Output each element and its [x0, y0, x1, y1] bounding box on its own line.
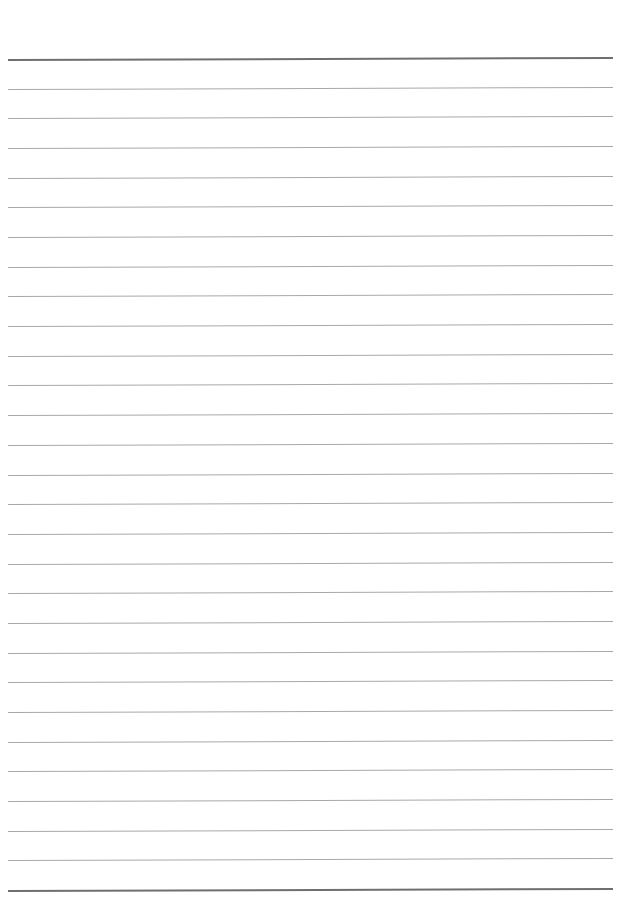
- ruled-line: [8, 205, 613, 208]
- heavy-ruled-line: [8, 888, 613, 892]
- ruled-line: [8, 769, 613, 772]
- ruled-line: [8, 324, 613, 327]
- ruled-line: [8, 383, 613, 386]
- ruled-line: [8, 176, 613, 179]
- ruled-line: [8, 710, 613, 713]
- ruled-line: [8, 621, 613, 624]
- ruled-line: [8, 799, 613, 802]
- ruled-line: [8, 265, 613, 268]
- ruled-line: [8, 294, 613, 297]
- ruled-line: [8, 502, 613, 505]
- ruled-line: [8, 532, 613, 535]
- ruled-line: [8, 829, 613, 832]
- heavy-ruled-line: [8, 57, 613, 61]
- ruled-line: [8, 651, 613, 654]
- ruled-line: [8, 740, 613, 743]
- ruled-line: [8, 858, 613, 861]
- ruled-line: [8, 562, 613, 565]
- ruled-line: [8, 591, 613, 594]
- lined-paper-page: [0, 0, 638, 911]
- ruled-line: [8, 87, 613, 90]
- ruled-line: [8, 443, 613, 446]
- ruled-line: [8, 235, 613, 238]
- ruled-line: [8, 146, 613, 149]
- ruled-line: [8, 354, 613, 357]
- ruled-line: [8, 473, 613, 476]
- ruled-line: [8, 413, 613, 416]
- ruled-line: [8, 680, 613, 683]
- ruled-line: [8, 116, 613, 119]
